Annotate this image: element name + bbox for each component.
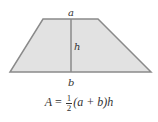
formula-fraction: 1 2 [66, 94, 73, 113]
fraction-denominator: 2 [66, 104, 73, 113]
formula-lhs: A [45, 95, 52, 109]
formula-equals: = [55, 95, 62, 109]
area-formula: A = 1 2 (a + b)h [0, 94, 158, 113]
formula-rhs: (a + b)h [73, 95, 113, 109]
trapezoid-shape [10, 19, 151, 72]
label-b: b [68, 77, 74, 88]
label-a: a [68, 7, 74, 18]
label-h: h [74, 41, 80, 52]
